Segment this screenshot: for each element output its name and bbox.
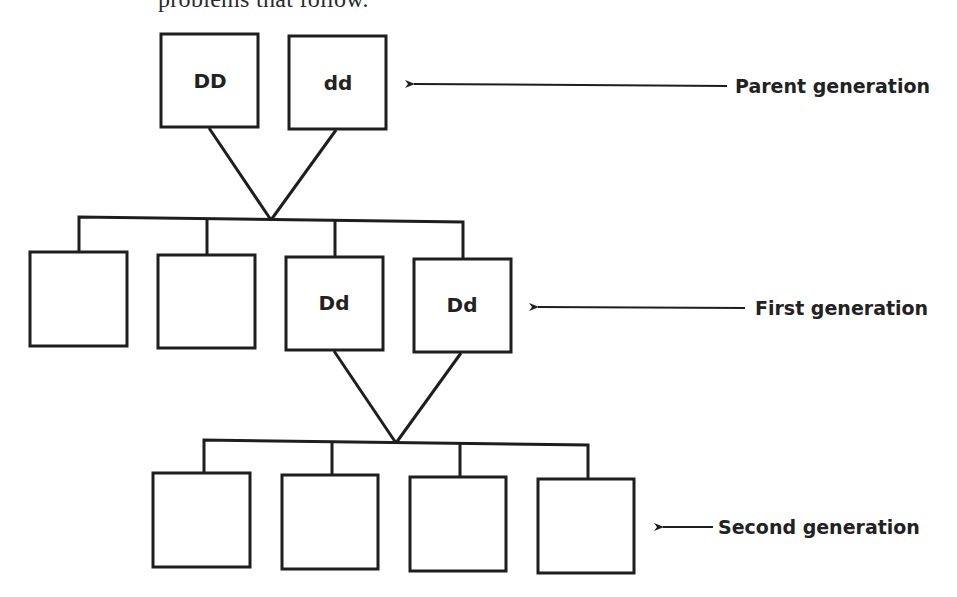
second-generation-label: Second generation [718,516,920,538]
parent-box-2-genotype: dd [324,71,353,95]
second-gen-box-1 [153,473,250,567]
first-gen-box-4-genotype: Dd [447,293,478,317]
parent-connector [79,128,463,259]
second-gen-box-2 [282,475,378,569]
second-gen-box-4 [538,479,634,573]
pedigree-diagram: DD dd Dd Dd Parent generation First gene… [0,0,957,597]
first-gen-connector [204,351,588,479]
first-generation-label: First generation [755,297,928,319]
first-gen-box-1 [30,252,127,346]
first-gen-box-2 [158,255,255,348]
second-gen-box-3 [410,477,506,571]
parent-generation-arrow-icon [414,84,727,86]
parent-generation-label: Parent generation [735,75,930,97]
parent-box-1-genotype: DD [193,69,226,93]
first-gen-box-3-genotype: Dd [319,291,350,315]
first-generation-arrow-icon [538,307,745,308]
